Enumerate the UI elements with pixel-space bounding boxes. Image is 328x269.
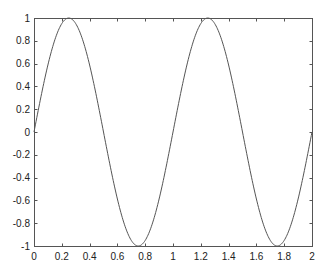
x-tick-label: 0.2	[55, 251, 69, 262]
y-tick-label: 1	[24, 13, 30, 24]
y-tick-label: 0.2	[16, 104, 30, 115]
x-tick-label: 1.4	[222, 251, 236, 262]
y-tick-label: 0.6	[16, 58, 30, 69]
y-axis-ticks: -1-0.8-0.6-0.4-0.200.20.40.60.81	[13, 13, 313, 252]
y-tick-label: 0	[24, 127, 30, 138]
line-chart: 00.20.40.60.811.21.41.61.82 -1-0.8-0.6-0…	[0, 0, 328, 269]
x-tick-label: 0.6	[110, 251, 124, 262]
y-tick-label: -0.2	[13, 149, 31, 160]
x-tick-label: 0	[31, 251, 37, 262]
x-tick-label: 0.4	[83, 251, 97, 262]
y-tick-label: -0.6	[13, 195, 31, 206]
x-tick-label: 1.2	[194, 251, 208, 262]
y-tick-label: 0.8	[16, 35, 30, 46]
x-tick-label: 0.8	[138, 251, 152, 262]
axes-box	[35, 19, 313, 247]
y-tick-label: -0.8	[13, 218, 31, 229]
x-tick-label: 2	[309, 251, 315, 262]
x-axis-ticks: 00.20.40.60.811.21.41.61.82	[31, 19, 315, 263]
y-tick-label: -1	[21, 241, 30, 252]
x-tick-label: 1.8	[277, 251, 291, 262]
x-tick-label: 1	[170, 251, 176, 262]
sine-curve	[34, 18, 312, 246]
y-tick-label: -0.4	[13, 172, 31, 183]
y-tick-label: 0.4	[16, 81, 30, 92]
x-tick-label: 1.6	[249, 251, 263, 262]
